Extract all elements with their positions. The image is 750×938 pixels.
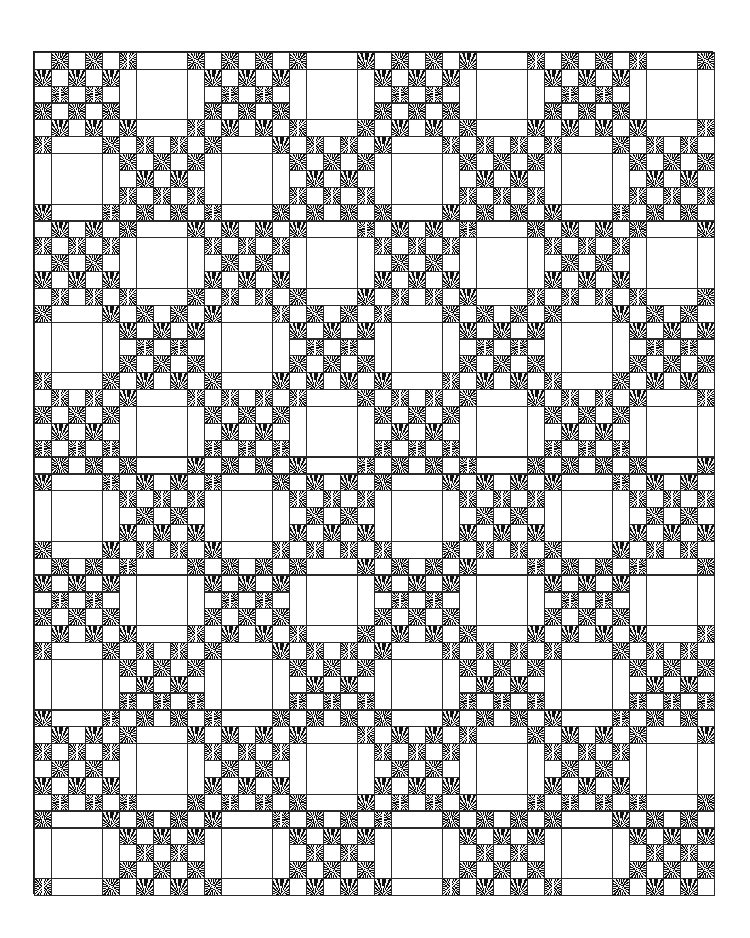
- side-strip: [527, 743, 545, 794]
- corner-print-square: [629, 457, 647, 475]
- plain-square: [629, 204, 647, 222]
- side-strip: [697, 743, 715, 794]
- print-square: [374, 69, 392, 87]
- plain-square: [323, 136, 341, 154]
- side-strip: [119, 406, 137, 457]
- corner-print-square: [289, 726, 307, 744]
- print-square: [527, 861, 545, 879]
- plain-square: [306, 659, 324, 677]
- plain-square: [493, 541, 511, 559]
- print-square: [544, 103, 562, 121]
- print-square: [136, 710, 154, 728]
- corner-print-square: [34, 811, 52, 829]
- corner-print-square: [442, 878, 460, 896]
- print-square: [306, 372, 324, 390]
- plain-square: [68, 625, 86, 643]
- plain-square: [289, 844, 307, 862]
- print-square: [289, 693, 307, 711]
- print-square: [170, 372, 188, 390]
- plain-square: [255, 777, 273, 795]
- print-square: [663, 153, 681, 171]
- plain-square: [510, 524, 528, 542]
- plain-square: [527, 372, 545, 390]
- plain-square: [102, 221, 120, 239]
- side-strip: [221, 642, 273, 660]
- side-strip: [391, 642, 443, 660]
- corner-print-square: [204, 372, 222, 390]
- side-strip: [119, 743, 137, 794]
- plain-square: [697, 136, 715, 154]
- plain-square: [51, 440, 69, 458]
- print-square: [255, 86, 273, 104]
- corner-print-square: [442, 204, 460, 222]
- print-square: [306, 642, 324, 660]
- plain-square: [544, 457, 562, 475]
- print-square: [578, 406, 596, 424]
- corner-print-square: [374, 305, 392, 323]
- corner-print-square: [204, 710, 222, 728]
- print-square: [221, 389, 239, 407]
- plain-square: [187, 372, 205, 390]
- print-square: [561, 288, 579, 306]
- plain-square: [323, 811, 341, 829]
- plain-square: [204, 760, 222, 778]
- side-strip: [289, 237, 307, 288]
- plain-square: [272, 423, 290, 441]
- side-strip: [204, 659, 222, 710]
- print-square: [561, 794, 579, 812]
- plain-square: [442, 794, 460, 812]
- print-square: [85, 389, 103, 407]
- plain-square: [595, 69, 613, 87]
- print-square: [374, 103, 392, 121]
- plain-square: [442, 254, 460, 272]
- plain-square: [306, 828, 324, 846]
- print-square: [51, 119, 69, 137]
- plain-square: [119, 811, 137, 829]
- side-strip: [289, 69, 307, 120]
- plain-square: [340, 153, 358, 171]
- side-strip: [391, 372, 443, 390]
- print-square: [255, 119, 273, 137]
- plain-square: [595, 406, 613, 424]
- plain-square: [340, 187, 358, 205]
- plain-square: [612, 760, 630, 778]
- plain-square: [612, 221, 630, 239]
- corner-print-square: [612, 372, 630, 390]
- plain-square: [204, 726, 222, 744]
- print-square: [425, 86, 443, 104]
- print-square: [34, 69, 52, 87]
- side-strip: [221, 541, 273, 559]
- side-strip: [51, 541, 103, 559]
- print-square: [68, 440, 86, 458]
- plain-square: [34, 221, 52, 239]
- plain-square: [391, 575, 409, 593]
- print-square: [306, 170, 324, 188]
- print-square: [85, 288, 103, 306]
- side-strip: [187, 69, 205, 120]
- print-square: [544, 608, 562, 626]
- plain-square: [221, 777, 239, 795]
- corner-print-square: [289, 794, 307, 812]
- side-strip: [221, 136, 273, 154]
- side-strip: [34, 322, 52, 373]
- side-strip: [646, 558, 698, 576]
- print-square: [408, 271, 426, 289]
- plain-square: [221, 237, 239, 255]
- print-square: [595, 760, 613, 778]
- corner-print-square: [612, 474, 630, 492]
- plain-square: [204, 592, 222, 610]
- center-square: [306, 743, 358, 794]
- print-square: [102, 575, 120, 593]
- plain-square: [204, 794, 222, 812]
- plain-square: [340, 693, 358, 711]
- side-strip: [51, 811, 103, 829]
- plain-square: [527, 305, 545, 323]
- plain-square: [357, 642, 375, 660]
- center-square: [646, 69, 698, 120]
- corner-print-square: [544, 136, 562, 154]
- print-square: [85, 592, 103, 610]
- print-square: [595, 254, 613, 272]
- plain-square: [357, 844, 375, 862]
- print-square: [595, 457, 613, 475]
- plain-square: [357, 204, 375, 222]
